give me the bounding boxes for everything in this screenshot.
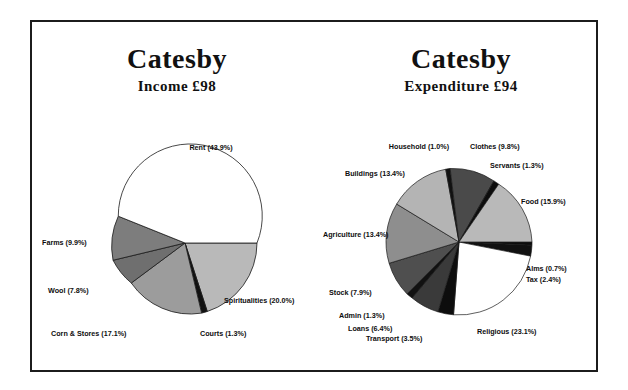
expenditure-label-religious: Religious (23.1%) [477, 328, 537, 336]
expenditure-label-tax: Tax (2.4%) [526, 276, 561, 284]
expenditure-pie-svg [385, 168, 533, 316]
income-chart-subtitle: Income £98 [32, 78, 322, 95]
income-pie [112, 170, 258, 316]
income-chart-panel: Catesby Income £98 [32, 22, 322, 370]
income-chart-title: Catesby [32, 44, 322, 74]
expenditure-chart-title: Catesby [322, 44, 600, 74]
income-label-farms: Farms (9.9%) [42, 239, 87, 247]
expenditure-label-alms: Alms (0.7%) [526, 265, 567, 273]
income-label-courts: Courts (1.3%) [200, 330, 246, 338]
expenditure-label-loans: Loans (6.4%) [348, 325, 392, 333]
income-label-spiritualities: Spiritualities (20.0%) [224, 297, 294, 305]
expenditure-label-stock: Stock (7.9%) [329, 289, 372, 297]
expenditure-chart-panel: Catesby Expenditure £94 [322, 22, 600, 370]
income-label-rent: Rent (43.9%) [189, 144, 232, 152]
expenditure-label-clothes: Clothes (9.8%) [470, 143, 520, 151]
income-label-wool: Wool (7.8%) [48, 287, 89, 295]
expenditure-label-admin: Admin (1.3%) [339, 312, 385, 320]
expenditure-label-buildings: Buildings (13.4%) [345, 170, 405, 178]
expenditure-pie [385, 168, 533, 316]
expenditure-label-food: Food (15.9%) [521, 198, 566, 206]
expenditure-label-agriculture: Agriculture (13.4%) [323, 231, 389, 239]
figure-frame: Catesby Income £98 [30, 20, 598, 372]
expenditure-label-household: Household (1.0%) [389, 143, 449, 151]
expenditure-label-servants: Servants (1.3%) [490, 162, 544, 170]
expenditure-chart-subtitle: Expenditure £94 [322, 78, 600, 95]
expenditure-label-transport: Transport (3.5%) [366, 335, 422, 343]
figure-page: Catesby Income £98 [0, 0, 628, 390]
income-label-corn-stores: Corn & Stores (17.1%) [51, 330, 127, 338]
income-pie-svg [112, 170, 258, 316]
